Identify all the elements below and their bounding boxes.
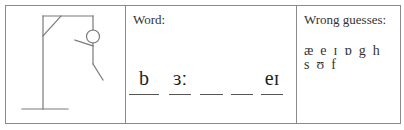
gallows-brace	[43, 16, 61, 36]
letter-slot: eɪ	[261, 63, 283, 95]
hangman-drawing-icon	[1, 1, 121, 120]
hangman-leg	[93, 64, 103, 80]
wrong-letter: ɒ	[344, 44, 351, 58]
wrong-letter: æ	[304, 44, 313, 58]
wrong-letter: ɪ	[334, 44, 338, 58]
letter-slot	[200, 63, 223, 95]
wrong-letter: g	[359, 44, 366, 58]
letter-slot: ɜː	[169, 63, 191, 95]
wrong-letter: f	[331, 58, 336, 72]
wrong-letter: e	[320, 44, 326, 58]
letter-slot	[231, 63, 253, 95]
wrong-guesses-list: æ e ɪ ɒ g h s ʊ f	[304, 44, 394, 72]
wrong-guesses-row: æ e ɪ ɒ g h	[304, 44, 394, 58]
letter-slot: b	[129, 63, 159, 95]
word-slots: b ɜː eɪ	[126, 6, 296, 123]
hangman-head	[87, 30, 100, 43]
wrong-guesses-cell: Wrong guesses: æ e ɪ ɒ g h s ʊ f	[297, 6, 400, 123]
hangman-board: Word: b ɜː eɪ Wrong guesses: æ e ɪ ɒ g h…	[5, 5, 401, 124]
wrong-letter: ʊ	[316, 58, 324, 72]
wrong-guesses-label: Wrong guesses:	[304, 12, 386, 27]
word-cell: Word: b ɜː eɪ	[126, 6, 297, 123]
wrong-guesses-row: s ʊ f	[304, 58, 394, 72]
wrong-letter: h	[373, 44, 380, 58]
wrong-letter: s	[304, 58, 309, 72]
gallows-cell	[6, 6, 126, 123]
